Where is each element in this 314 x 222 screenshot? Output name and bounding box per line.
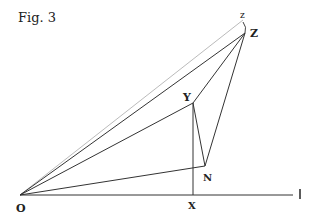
geometry-diagram: O X Y N Z z bbox=[0, 0, 314, 222]
label-X: X bbox=[188, 200, 196, 211]
label-N: N bbox=[203, 172, 212, 183]
label-Z: Z bbox=[250, 27, 258, 40]
line-O-Z bbox=[20, 33, 245, 195]
label-O: O bbox=[16, 202, 26, 215]
label-z: z bbox=[240, 10, 245, 20]
line-O-z bbox=[20, 20, 243, 195]
curve-z-Z bbox=[243, 22, 246, 33]
line-Y-N bbox=[193, 103, 205, 166]
line-N-Z bbox=[205, 33, 245, 166]
label-Y: Y bbox=[182, 91, 191, 104]
line-Y-Z bbox=[193, 33, 245, 103]
